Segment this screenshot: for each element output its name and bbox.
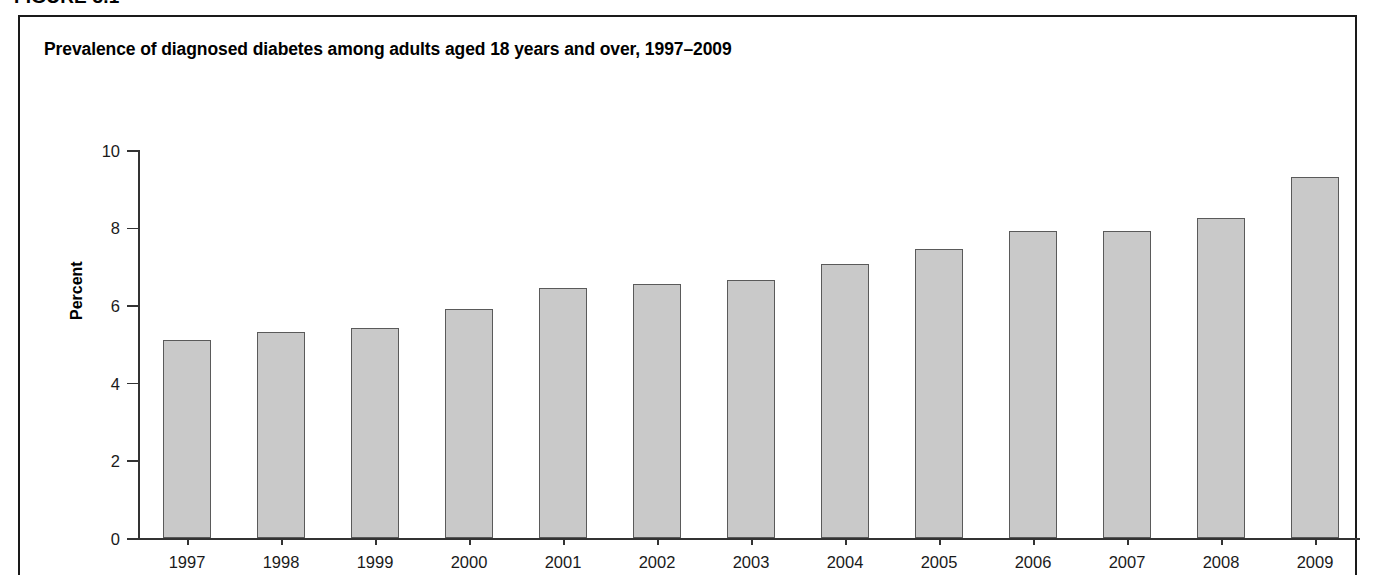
y-tick-label: 0 (111, 529, 120, 548)
bar-slot (422, 135, 516, 538)
y-tick: 6 (127, 305, 138, 307)
figure-label: FIGURE 3.1 (14, 0, 119, 8)
y-tick-label: 10 (102, 141, 120, 160)
bar (257, 332, 305, 538)
y-tick: 10 (127, 150, 138, 152)
x-tick (939, 538, 941, 545)
x-tick (845, 538, 847, 545)
y-tick-label: 2 (111, 452, 120, 471)
bar-slot (140, 135, 234, 538)
bar (633, 284, 681, 538)
x-tick (1221, 538, 1223, 545)
y-tick-label: 4 (111, 374, 120, 393)
x-tick (187, 538, 189, 545)
bar (821, 264, 869, 538)
y-tick: 4 (127, 383, 138, 385)
bar-slot (328, 135, 422, 538)
bar-slot (1174, 135, 1268, 538)
y-tick-label: 8 (111, 219, 120, 238)
bar (1103, 231, 1151, 538)
bar (445, 309, 493, 538)
bar-slot (1268, 135, 1362, 538)
bar-slot (1080, 135, 1174, 538)
y-tick-label: 6 (111, 296, 120, 315)
x-tick (1127, 538, 1129, 545)
x-tick (563, 538, 565, 545)
figure-frame: Prevalence of diagnosed diabetes among a… (18, 15, 1357, 575)
x-tick (751, 538, 753, 545)
x-tick (1033, 538, 1035, 545)
footnote-strip (40, 570, 1300, 582)
bar (1291, 177, 1339, 538)
x-tick (375, 538, 377, 545)
bar (1197, 218, 1245, 538)
bar (915, 249, 963, 538)
bar-group (140, 135, 1360, 538)
bar (1009, 231, 1057, 538)
bar (727, 280, 775, 538)
x-tick (469, 538, 471, 545)
bar (539, 288, 587, 538)
bar-slot (798, 135, 892, 538)
y-axis-title: Percent (68, 261, 86, 320)
x-tick (657, 538, 659, 545)
bar-slot (610, 135, 704, 538)
bar-slot (704, 135, 798, 538)
y-tick: 0 (127, 538, 138, 540)
bar-slot (892, 135, 986, 538)
bar-slot (986, 135, 1080, 538)
y-tick: 2 (127, 460, 138, 462)
bar-slot (516, 135, 610, 538)
x-axis-line (138, 538, 1360, 540)
bar-slot (234, 135, 328, 538)
x-tick (281, 538, 283, 545)
x-tick (1315, 538, 1317, 545)
y-tick: 8 (127, 228, 138, 230)
plot-area: Percent 0246810 199719981999200020012002… (120, 135, 1360, 555)
bar (351, 328, 399, 538)
chart-title: Prevalence of diagnosed diabetes among a… (44, 39, 732, 60)
bar (163, 340, 211, 538)
